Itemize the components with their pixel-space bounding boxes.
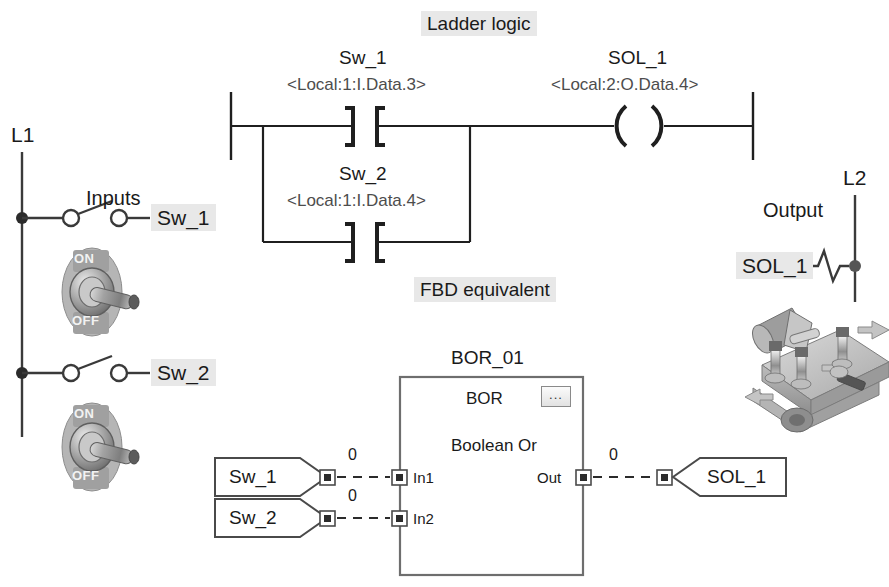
toggle-2-off-label: OFF [72, 469, 100, 482]
fbd-pin-out-label: Out [537, 470, 561, 485]
fbd-instance-name: BOR_01 [451, 348, 524, 367]
ladder-logic-title: Ladder logic [421, 14, 537, 33]
inputs-group-label: Inputs [86, 188, 140, 208]
rung-contact-2-address: <Local:1:I.Data.4> [287, 192, 426, 209]
fbd-equivalent-title: FBD equivalent [414, 280, 556, 299]
l1-rail-label: L1 [11, 124, 34, 145]
fbd-pin-in2-label: In2 [413, 511, 434, 526]
fbd-tag-sw1-label: Sw_1 [229, 467, 277, 486]
rung-contact-1-name: Sw_1 [339, 48, 387, 67]
field-switch-1-label: Sw_1 [151, 207, 216, 228]
output-group-label: Output [763, 200, 823, 220]
toggle-1-off-label: OFF [72, 314, 100, 327]
field-solenoid-label: SOL_1 [736, 255, 813, 276]
toggle-2-on-label: ON [74, 407, 95, 420]
fbd-wire-in1-value: 0 [348, 447, 357, 463]
rung-contact-1-address: <Local:1:I.Data.3> [287, 76, 426, 93]
fbd-block-output-pin [576, 470, 591, 485]
rung-coil-address: <Local:2:O.Data.4> [551, 76, 698, 93]
fbd-wire-out-value: 0 [609, 447, 618, 463]
l2-node [849, 260, 861, 272]
fbd-wire-in2-value: 0 [348, 488, 357, 504]
fbd-block-type: BOR [466, 390, 503, 407]
fbd-block-ellipsis-button[interactable]: ... [541, 386, 571, 407]
fbd-tag-sol1-label: SOL_1 [707, 467, 766, 486]
fbd-tag-sw2-label: Sw_2 [229, 508, 277, 527]
ladder-rung-group [231, 92, 753, 242]
toggle-1-on-label: ON [74, 252, 95, 265]
conveyor-solenoid-illustration [745, 308, 889, 432]
fbd-pin-in1-label: In1 [413, 470, 434, 485]
l2-rail-label: L2 [843, 167, 866, 188]
fbd-tag-sol1-pin [657, 470, 672, 485]
fbd-tag-sw2-pin [320, 511, 335, 526]
field-switch-2-label: Sw_2 [151, 362, 216, 383]
ladder-contact-sw2[interactable] [345, 224, 385, 261]
ladder-contact-sw1[interactable] [345, 108, 385, 145]
plc-ladder-fbd-diagram: Ladder logic FBD equivalent L1 L2 Inputs… [0, 0, 889, 587]
ladder-coil-sol1[interactable] [617, 106, 662, 146]
rung-coil-name: SOL_1 [608, 48, 667, 67]
rung-contact-2-name: Sw_2 [339, 164, 387, 183]
field-switch-2-symbol[interactable] [22, 356, 150, 381]
fbd-block-description: Boolean Or [451, 437, 537, 454]
fbd-tag-sw1-pin [320, 470, 335, 485]
